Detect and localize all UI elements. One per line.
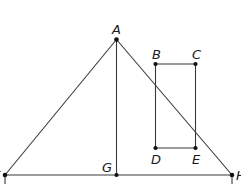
point-H (230, 173, 235, 178)
label-F: F (0, 168, 1, 183)
point-E (193, 146, 197, 150)
label-D: D (151, 152, 161, 167)
point-F (3, 173, 8, 178)
point-D (153, 146, 157, 150)
point-A (114, 37, 119, 42)
point-G (114, 173, 118, 177)
label-H: H (236, 168, 241, 183)
segment-AF (5, 40, 117, 176)
point-C (193, 62, 197, 66)
geometry-diagram: A B C D E F G H (0, 0, 241, 184)
label-A: A (111, 22, 121, 37)
label-B: B (152, 47, 161, 62)
label-G: G (102, 160, 112, 175)
point-B (153, 62, 157, 66)
label-C: C (192, 47, 202, 62)
segment-AH (117, 40, 233, 176)
label-E: E (192, 152, 201, 167)
labels: A B C D E F G H (0, 22, 241, 183)
